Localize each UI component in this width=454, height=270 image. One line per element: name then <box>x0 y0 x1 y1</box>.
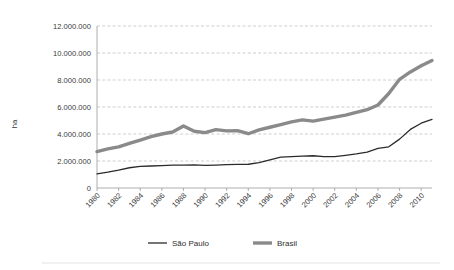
chart-legend: São PauloBrasil <box>148 239 297 248</box>
y-tick-label-2: 4.000.000 <box>57 130 91 139</box>
x-tick-label-6: 1992 <box>213 191 231 209</box>
x-tick-label-10: 2000 <box>300 191 318 209</box>
series-group <box>97 60 432 173</box>
x-tick-label-8: 1996 <box>256 191 274 209</box>
x-tick-label-0: 1980 <box>84 191 102 209</box>
x-tick-label-9: 1998 <box>278 191 296 209</box>
x-tick-label-1: 1982 <box>105 191 123 209</box>
x-axis-tick-labels: 1980198219841986198819901992199419961998… <box>84 191 427 209</box>
chart-figure: 02.000.0004.000.0006.000.0008.000.00010.… <box>0 0 454 270</box>
x-tick-label-2: 1984 <box>127 191 145 209</box>
x-tick-label-3: 1986 <box>148 191 166 209</box>
y-axis-title: ha <box>10 119 19 128</box>
y-tick-label-3: 6.000.000 <box>57 103 91 112</box>
legend-label-brasil: Brasil <box>277 239 297 248</box>
x-tick-label-5: 1990 <box>192 191 210 209</box>
x-tick-label-7: 1994 <box>235 191 253 209</box>
y-tick-label-5: 10.000.000 <box>53 49 91 58</box>
y-tick-label-6: 12.000.000 <box>53 22 91 31</box>
y-tick-label-0: 0 <box>87 184 91 193</box>
series-line-brasil <box>97 60 432 151</box>
y-axis-tick-labels: 02.000.0004.000.0006.000.0008.000.00010.… <box>53 22 91 193</box>
x-tick-label-4: 1988 <box>170 191 188 209</box>
x-tick-label-14: 2008 <box>386 191 404 209</box>
x-tick-label-11: 2002 <box>321 191 339 209</box>
y-tick-label-1: 2.000.000 <box>57 157 91 166</box>
line-chart: 02.000.0004.000.0006.000.0008.000.00010.… <box>0 0 454 270</box>
gridlines-group <box>97 26 432 161</box>
y-tick-label-4: 8.000.000 <box>57 76 91 85</box>
x-tick-label-13: 2006 <box>365 191 383 209</box>
legend-label-sao-paulo: São Paulo <box>172 239 209 248</box>
x-tick-label-12: 2004 <box>343 191 361 209</box>
x-tick-label-15: 2010 <box>408 191 426 209</box>
